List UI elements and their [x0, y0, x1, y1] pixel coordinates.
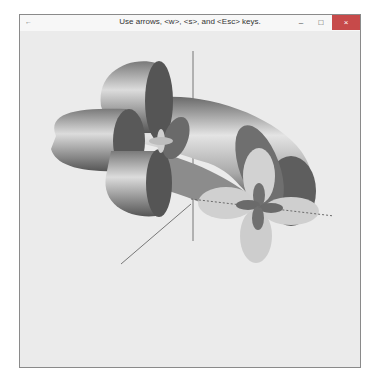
right-inner-bottom	[252, 206, 264, 230]
close-button[interactable]: ×	[332, 15, 360, 30]
minimize-button[interactable]: –	[290, 15, 312, 30]
title-bar[interactable]: ← Use arrows, <w>, <s>, and <Esc> keys. …	[20, 15, 360, 32]
maximize-button[interactable]: □	[310, 15, 332, 30]
left-cross-horizontal	[149, 137, 173, 145]
render-canvas[interactable]	[20, 31, 360, 367]
3d-scene	[20, 31, 360, 367]
app-window: ← Use arrows, <w>, <s>, and <Esc> keys. …	[19, 14, 361, 368]
left-lobe-bottom-cap	[146, 149, 172, 217]
